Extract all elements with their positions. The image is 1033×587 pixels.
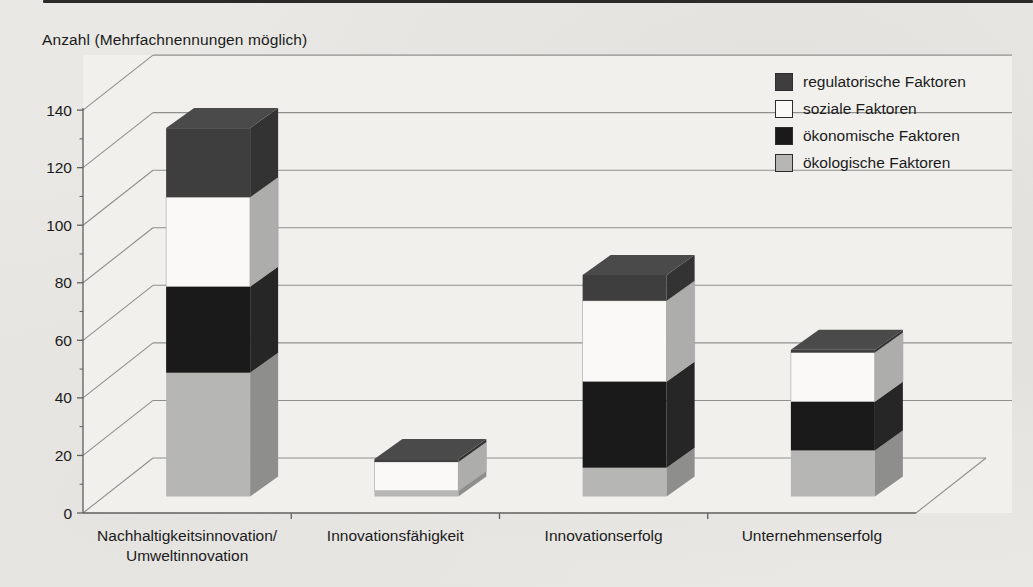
chart-legend: regulatorische Faktoren soziale Faktoren… bbox=[775, 73, 966, 181]
svg-text:Unternehmenserfolg: Unternehmenserfolg bbox=[742, 527, 882, 544]
legend-label: soziale Faktoren bbox=[803, 100, 917, 118]
legend-label: ökonomische Faktoren bbox=[803, 127, 960, 145]
legend-swatch-2 bbox=[775, 127, 793, 145]
svg-text:20: 20 bbox=[55, 447, 73, 464]
svg-text:140: 140 bbox=[46, 102, 72, 119]
legend-item-oekonomische: ökonomische Faktoren bbox=[775, 127, 966, 144]
legend-label: ökologische Faktoren bbox=[803, 154, 950, 172]
legend-swatch-1 bbox=[775, 100, 793, 118]
svg-text:Nachhaltigkeitsinnovation/: Nachhaltigkeitsinnovation/ bbox=[97, 527, 278, 544]
legend-swatch-0 bbox=[775, 73, 793, 91]
bar-unternehmenserfolg bbox=[791, 330, 903, 497]
legend-swatch-3 bbox=[775, 154, 793, 172]
svg-text:60: 60 bbox=[55, 332, 73, 349]
svg-text:80: 80 bbox=[55, 274, 73, 291]
legend-item-oekologische: ökologische Faktoren bbox=[775, 154, 966, 171]
svg-text:120: 120 bbox=[46, 159, 72, 176]
svg-text:40: 40 bbox=[55, 389, 73, 406]
bar-innovationserfolg bbox=[583, 255, 695, 497]
legend-item-soziale: soziale Faktoren bbox=[775, 100, 966, 117]
bar-nachhaltigkeitsinnovation bbox=[166, 108, 278, 496]
svg-text:0: 0 bbox=[63, 505, 72, 522]
legend-label: regulatorische Faktoren bbox=[803, 73, 966, 91]
scanned-page: Anzahl (Mehrfachnennungen möglich) 02040… bbox=[0, 0, 1033, 587]
svg-text:Innovationserfolg: Innovationserfolg bbox=[545, 527, 663, 544]
legend-item-regulatorische: regulatorische Faktoren bbox=[775, 73, 966, 90]
category-labels: Nachhaltigkeitsinnovation/Umweltinnovati… bbox=[97, 527, 882, 564]
svg-text:Umweltinnovation: Umweltinnovation bbox=[126, 547, 248, 564]
svg-text:100: 100 bbox=[46, 217, 72, 234]
y-tick-labels: 020406080100120140 bbox=[46, 102, 72, 522]
bar-innovationsfaehigkeit bbox=[374, 439, 486, 496]
svg-text:Innovationsfähigkeit: Innovationsfähigkeit bbox=[327, 527, 465, 544]
